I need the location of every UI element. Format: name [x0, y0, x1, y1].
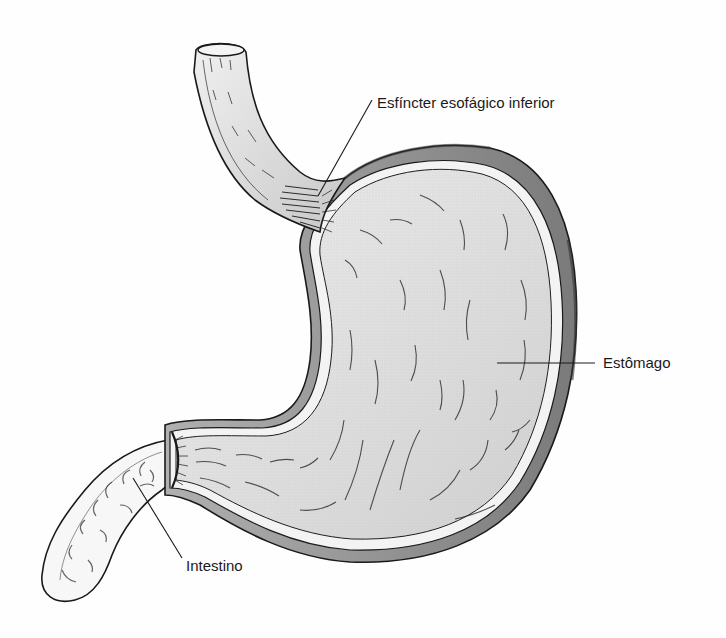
- label-intestino: Intestino: [186, 558, 243, 573]
- stomach-diagram: Esfíncter esofágico inferior Estômago In…: [0, 0, 726, 638]
- label-estomago: Estômago: [603, 355, 671, 370]
- intestine-shape: [42, 440, 171, 601]
- stomach-illustration: [0, 0, 726, 638]
- stomach-shape: [165, 145, 577, 562]
- label-esfincter-esofagico-inferior: Esfíncter esofágico inferior: [377, 95, 555, 110]
- esophagus-shape: [194, 44, 345, 233]
